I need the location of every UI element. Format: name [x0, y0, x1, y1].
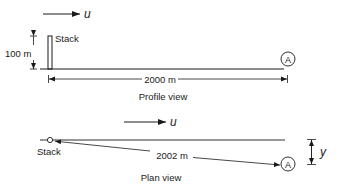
offset-dimension — [307, 140, 316, 165]
wind-label: u — [84, 7, 91, 21]
plan-caption: Plan view — [141, 172, 182, 183]
distance-label: 2002 m — [156, 150, 188, 161]
receptor-label: A — [285, 160, 291, 170]
profile-view: u Stack 100 m A 2000 m Profile view — [5, 7, 295, 102]
dispersion-diagram: u Stack 100 m A 2000 m Profile view — [0, 0, 344, 190]
distance-label: 2000 m — [144, 74, 176, 85]
offset-label: y — [319, 145, 327, 159]
stack-label: Stack — [55, 33, 79, 44]
stack-icon — [47, 137, 52, 142]
stack-icon — [48, 36, 52, 69]
wind-label: u — [170, 115, 177, 129]
height-label: 100 m — [5, 48, 31, 59]
receptor-label: A — [285, 55, 291, 65]
stack-label: Stack — [37, 146, 61, 157]
plan-view: u Stack 2002 m A y Plan view — [37, 115, 327, 183]
profile-caption: Profile view — [139, 91, 188, 102]
